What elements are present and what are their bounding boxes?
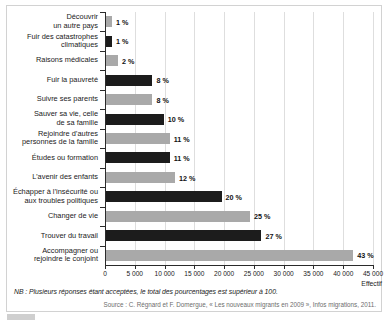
- x-axis-tick: [373, 265, 374, 269]
- category-label: Sauver sa vie, celle de sa famille: [0, 110, 98, 127]
- category-label: Accompagner ou rejoindre le conjoint: [0, 247, 98, 264]
- bar: [106, 230, 261, 241]
- bar-value-label: 20 %: [226, 193, 242, 202]
- x-axis-tick-label: 40 000: [333, 270, 353, 277]
- category-label: Raisons médicales: [0, 56, 98, 65]
- gridline: [224, 12, 225, 265]
- gridline: [254, 12, 255, 265]
- x-axis-tick: [135, 265, 136, 269]
- bar: [106, 75, 152, 86]
- x-axis-line: [105, 265, 374, 266]
- y-axis-tick: [100, 246, 105, 247]
- category-label: Études ou formation: [0, 154, 98, 163]
- category-label: Échapper à l’insécurité ou aux troubles …: [0, 188, 98, 205]
- x-axis-tick: [343, 265, 344, 269]
- bar: [106, 16, 112, 27]
- y-axis-tick: [100, 187, 105, 188]
- gridline: [343, 12, 344, 265]
- y-axis-tick: [100, 90, 105, 91]
- bar: [106, 55, 118, 66]
- y-axis-tick: [100, 31, 105, 32]
- category-label: Changer de vie: [0, 212, 98, 221]
- y-axis-tick: [100, 129, 105, 130]
- nb-note: NB : Plusieurs réponses étant acceptées,…: [14, 288, 376, 295]
- y-axis-tick: [100, 12, 105, 13]
- bar: [106, 211, 250, 222]
- x-axis-tick: [165, 265, 166, 269]
- x-axis-tick: [105, 265, 106, 269]
- x-axis-tick-label: 45 000: [363, 270, 383, 277]
- category-label: Fuir des catastrophes climatiques: [0, 33, 98, 50]
- x-axis-tick: [254, 265, 255, 269]
- category-label: Découvrir un autre pays: [0, 13, 98, 30]
- x-axis-tick: [194, 265, 195, 269]
- gridline: [313, 12, 314, 265]
- bar-value-label: 27 %: [265, 232, 281, 241]
- bottom-tab-marker: [7, 314, 35, 320]
- x-axis-tick: [313, 265, 314, 269]
- bar: [106, 133, 170, 144]
- bar: [106, 191, 222, 202]
- y-axis-tick: [100, 148, 105, 149]
- bar-value-label: 10 %: [168, 115, 184, 124]
- bar: [106, 250, 353, 261]
- bar-value-label: 43 %: [357, 251, 373, 260]
- y-axis-tick: [100, 109, 105, 110]
- x-axis-tick-label: 25 000: [244, 270, 264, 277]
- bar-value-label: 8 %: [156, 76, 168, 85]
- x-axis-title: Effectif: [340, 280, 382, 287]
- y-axis-tick: [100, 207, 105, 208]
- gridline: [194, 12, 195, 265]
- x-axis-tick: [224, 265, 225, 269]
- y-axis-tick: [100, 226, 105, 227]
- category-label: L’avenir des enfants: [0, 173, 98, 182]
- bar-value-label: 2 %: [122, 57, 134, 66]
- bar-value-label: 1 %: [116, 18, 128, 27]
- x-axis-tick-label: 30 000: [274, 270, 294, 277]
- category-label: Suivre ses parents: [0, 95, 98, 104]
- category-label: Fuir la pauvreté: [0, 76, 98, 85]
- x-axis-tick-label: 15 000: [184, 270, 204, 277]
- x-axis-tick-label: 35 000: [303, 270, 323, 277]
- category-label: Trouver du travail: [0, 232, 98, 241]
- bar-value-label: 1 %: [116, 37, 128, 46]
- x-axis-tick: [284, 265, 285, 269]
- bar: [106, 36, 112, 47]
- x-axis-tick-label: 20 000: [214, 270, 234, 277]
- y-axis-tick: [100, 70, 105, 71]
- bar-value-label: 12 %: [179, 174, 195, 183]
- y-axis-tick: [100, 51, 105, 52]
- category-label: Rejoindre d’autres personnes de la famil…: [0, 130, 98, 147]
- bar-value-label: 11 %: [174, 154, 190, 163]
- bar: [106, 152, 170, 163]
- gridline: [373, 12, 374, 265]
- bar: [106, 94, 152, 105]
- figure: Effectif NB : Plusieurs réponses étant a…: [0, 0, 390, 324]
- source-note: Source : C. Régnard et F. Domergue, « Le…: [14, 301, 376, 308]
- bar: [106, 172, 175, 183]
- x-axis-tick-label: 10 000: [154, 270, 174, 277]
- x-axis-tick-label: 0: [103, 270, 107, 277]
- bar-value-label: 25 %: [254, 212, 270, 221]
- y-axis-tick: [100, 168, 105, 169]
- bar: [106, 114, 164, 125]
- bar-value-label: 11 %: [174, 135, 190, 144]
- bar-value-label: 8 %: [156, 96, 168, 105]
- x-axis-tick-label: 5 000: [127, 270, 144, 277]
- gridline: [284, 12, 285, 265]
